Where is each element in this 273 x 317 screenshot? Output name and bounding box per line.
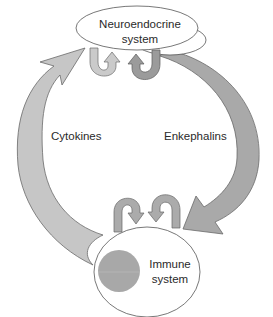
enkephalins-label: Enkephalins xyxy=(164,130,227,142)
neuroendocrine-label-line1: Neuroendocrine xyxy=(99,18,181,30)
immune-label-line2: system xyxy=(152,273,188,285)
immune-node: Immune system xyxy=(94,227,200,317)
neuro-immune-diagram: Neuroendocrine system Immune system Cyto… xyxy=(0,0,273,317)
cytokines-arrow xyxy=(17,48,103,265)
immune-self-loop-right-icon xyxy=(148,195,180,228)
neuroendocrine-label-line2: system xyxy=(122,33,158,45)
nucleus-circle xyxy=(98,250,140,292)
cytokines-label: Cytokines xyxy=(51,130,102,142)
neuroendocrine-node: Neuroendocrine system xyxy=(76,6,198,50)
neuroendocrine-self-loop-light-icon xyxy=(90,48,120,76)
neuroendocrine-self-loop-dark-icon xyxy=(128,50,160,80)
immune-label-line1: Immune xyxy=(149,258,191,270)
immune-self-loop-left-icon xyxy=(114,198,144,232)
